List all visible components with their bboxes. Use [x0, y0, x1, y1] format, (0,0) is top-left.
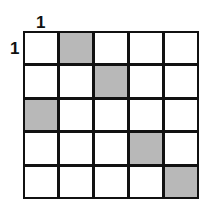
- empty-cell: [165, 66, 197, 96]
- shaded-cell: [95, 66, 127, 96]
- empty-cell: [165, 133, 197, 163]
- empty-cell: [60, 133, 92, 163]
- grid: [23, 31, 199, 199]
- empty-cell: [130, 33, 162, 63]
- empty-cell: [95, 33, 127, 63]
- empty-cell: [25, 66, 57, 96]
- empty-cell: [95, 167, 127, 197]
- empty-cell: [60, 100, 92, 130]
- shaded-cell: [60, 33, 92, 63]
- empty-cell: [165, 100, 197, 130]
- row-index-label: 1: [10, 40, 19, 57]
- empty-cell: [25, 33, 57, 63]
- empty-cell: [165, 33, 197, 63]
- empty-cell: [25, 133, 57, 163]
- empty-cell: [95, 133, 127, 163]
- column-index-label: 1: [36, 14, 45, 31]
- empty-cell: [130, 100, 162, 130]
- empty-cell: [130, 66, 162, 96]
- empty-cell: [60, 66, 92, 96]
- shaded-cell: [25, 100, 57, 130]
- empty-cell: [60, 167, 92, 197]
- empty-cell: [130, 167, 162, 197]
- empty-cell: [95, 100, 127, 130]
- empty-cell: [25, 167, 57, 197]
- shaded-cell: [165, 167, 197, 197]
- shaded-cell: [130, 133, 162, 163]
